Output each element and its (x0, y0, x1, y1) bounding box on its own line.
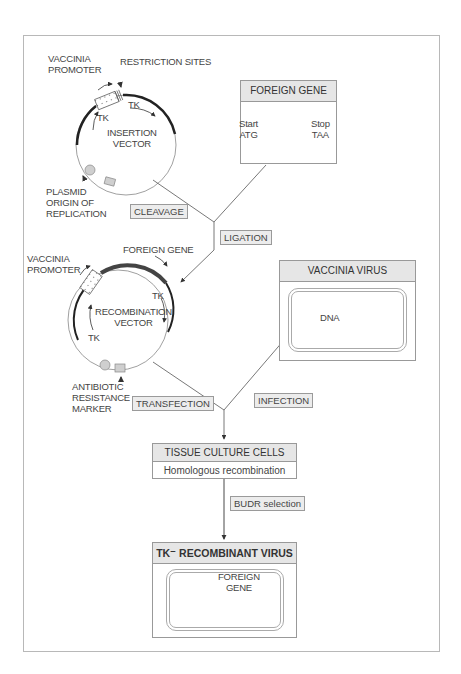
recombination-foreign-gene-label: FOREIGN GENE (123, 244, 193, 255)
insertion-tk-right-label: TK (128, 99, 140, 110)
insertion-tk-left-label: TK (97, 112, 109, 123)
insertion-vector-title: INSERTIONVECTOR (107, 127, 157, 149)
recombination-tk-left-label: TK (88, 332, 100, 343)
recombination-tk-right-label: TK (152, 290, 164, 301)
recombination-vaccinia-promoter-label: VACCINIAPROMOTER (27, 253, 80, 275)
antibiotic-marker-label: ANTIBIOTICRESISTANCEMARKER (72, 381, 130, 414)
recombinant-virus-title: TK⁻ RECOMBINANT VIRUS (153, 543, 296, 564)
plasmid-origin-label: PLASMIDORIGIN OFREPLICATION (46, 186, 106, 219)
dna-label: DNA (320, 312, 339, 323)
foreign-gene-box-title: FOREIGN GENE (241, 81, 336, 102)
recombination-vector-title: RECOMBINATIONVECTOR (95, 306, 172, 328)
tissue-culture-box: TISSUE CULTURE CELLS Homologous recombin… (152, 443, 297, 479)
virus-inner-membrane (291, 291, 404, 349)
recombinant-foreign-gene-label: FOREIGNGENE (218, 571, 260, 593)
transfection-tag: TRANSFECTION (132, 396, 214, 411)
infection-tag: INFECTION (254, 393, 313, 408)
homologous-recombination-label: Homologous recombination (153, 462, 296, 479)
ligation-tag: LIGATION (220, 230, 272, 245)
vaccinia-virus-box-title: VACCINIA VIRUS (280, 261, 415, 282)
stop-codon-label: StopTAA (311, 118, 330, 140)
restriction-sites-label: RESTRICTION SITES (120, 56, 211, 67)
tissue-culture-title: TISSUE CULTURE CELLS (153, 444, 296, 462)
insertion-vaccinia-promoter-label: VACCINIAPROMOTER (48, 53, 101, 75)
budr-selection-tag: BUDR selection (230, 496, 305, 511)
cleavage-tag: CLEAVAGE (130, 204, 188, 219)
start-codon-label: StartATG (239, 118, 258, 140)
